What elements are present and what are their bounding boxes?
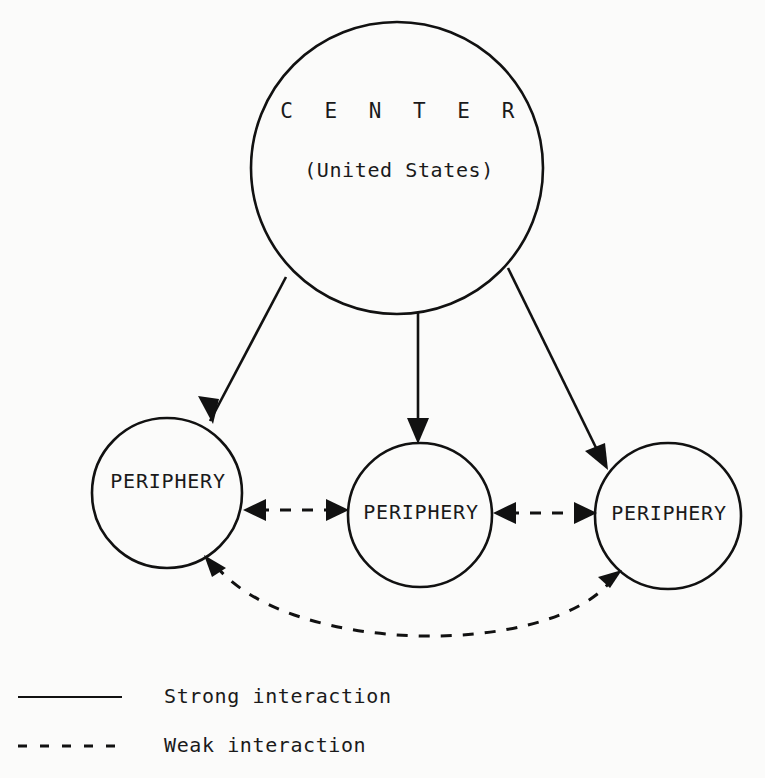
arrow-head-icon [585,443,608,470]
legend-label-weak: Weak interaction [164,733,366,757]
legend-label-strong: Strong interaction [164,684,392,708]
diagram-canvas: C E N T E R (United States) PERIPHERY PE… [0,0,765,778]
node-periphery-middle[interactable]: PERIPHERY [348,443,492,587]
node-periphery-left[interactable]: PERIPHERY [92,418,242,568]
center-title: C E N T E R [280,99,524,123]
edge-periphery-left-to-right-arc [204,555,622,636]
edge-periphery-left-to-middle [243,499,349,521]
arrow-head-icon [326,499,349,521]
center-periphery-diagram: C E N T E R (United States) PERIPHERY PE… [0,0,765,778]
arrow-head-icon [198,396,219,424]
legend-item-strong: Strong interaction [18,684,392,708]
legend-item-weak: Weak interaction [18,733,366,757]
periphery-left-label: PERIPHERY [110,469,226,493]
arrow-head-icon [243,499,266,521]
node-periphery-right[interactable]: PERIPHERY [595,443,741,589]
periphery-right-label: PERIPHERY [611,501,727,525]
node-center[interactable]: C E N T E R (United States) [251,22,543,314]
edge-arc [216,566,610,636]
edge-center-to-periphery-left [198,277,286,424]
edge-line [508,268,603,462]
edge-line [210,277,286,421]
arrow-head-icon [598,570,622,588]
arrow-head-icon [407,418,429,444]
periphery-middle-label: PERIPHERY [363,500,479,524]
arrow-head-icon [493,502,516,524]
periphery-left-circle[interactable] [92,418,242,568]
edge-center-to-periphery-middle [407,313,429,444]
edge-periphery-middle-to-right [493,502,597,524]
legend: Strong interaction Weak interaction [18,684,392,757]
edge-center-to-periphery-right [508,268,608,470]
center-subtitle: (United States) [304,158,494,182]
arrow-head-icon [574,502,597,524]
